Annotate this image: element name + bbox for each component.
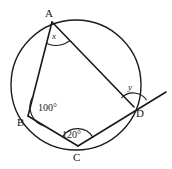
vertex-label-d: D [136, 108, 144, 119]
line-cd-extended [78, 92, 166, 146]
angle-label-100-degrees: 100° [38, 103, 57, 113]
angle-arc-a [46, 41, 70, 46]
chord-ad [52, 22, 134, 107]
vertex-label-b: B [17, 117, 24, 128]
angle-label-y: y [128, 83, 132, 92]
geometry-figure: A B C D x 100° 120° y [0, 0, 172, 169]
angle-arc-d [121, 93, 146, 100]
vertex-label-c: C [73, 152, 80, 163]
vertex-label-a: A [45, 8, 53, 19]
geometry-canvas [0, 0, 172, 169]
angle-label-x: x [52, 32, 56, 41]
angle-label-120-degrees: 120° [62, 130, 81, 140]
